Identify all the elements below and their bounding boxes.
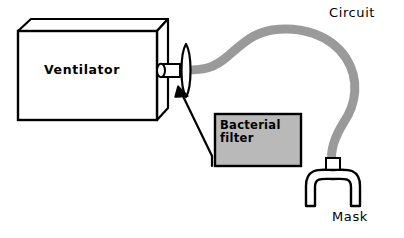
- filter-pointer-arrow: [175, 86, 212, 166]
- diagram-canvas: [0, 0, 404, 238]
- mask-arch: [306, 170, 360, 206]
- mask-label: Mask: [332, 210, 368, 225]
- ventilator-circuit-diagram: Ventilator Circuit Mask Bacterial filter: [0, 0, 404, 238]
- bacterial-filter-label-line2: filter: [220, 132, 281, 145]
- mask: [306, 158, 360, 206]
- ventilator-box-top-face: [18, 19, 168, 31]
- port-flange: [182, 44, 191, 97]
- port-barrel-cap: [157, 64, 165, 78]
- arrow-shaft: [180, 90, 212, 156]
- bacterial-filter-label: Bacterial filter: [220, 119, 281, 145]
- circuit-label: Circuit: [329, 6, 375, 21]
- ventilator-label: Ventilator: [44, 63, 120, 77]
